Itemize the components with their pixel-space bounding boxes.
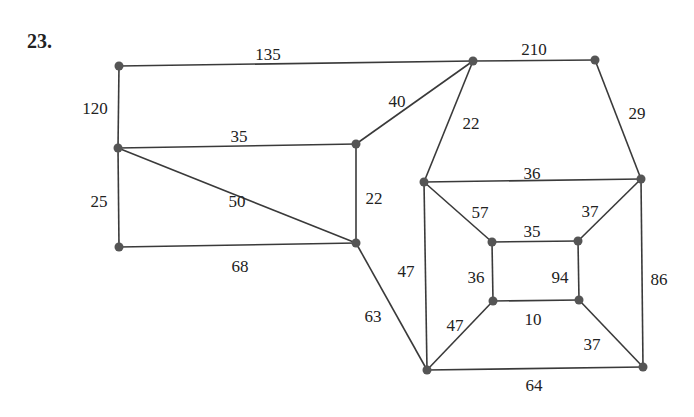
edge-N-O xyxy=(427,367,643,370)
vertex-F xyxy=(420,178,429,187)
edge-weight-labels: 1352101204022293550252268365737476335369… xyxy=(82,40,667,395)
edge-F-N xyxy=(424,182,427,370)
edge-A-D xyxy=(118,66,119,148)
edge-J-K xyxy=(492,241,578,242)
edge-D-H xyxy=(118,148,119,247)
edge-weight-label: 37 xyxy=(582,202,600,221)
edge-G-O xyxy=(641,179,643,367)
edge-weight-label: 94 xyxy=(552,268,570,287)
vertex-C xyxy=(591,56,600,65)
edge-L-M xyxy=(493,300,579,301)
edge-weight-label: 40 xyxy=(389,92,406,111)
vertex-D xyxy=(114,144,123,153)
edge-weight-label: 120 xyxy=(82,99,108,118)
edge-M-O xyxy=(579,300,643,367)
vertex-H xyxy=(115,243,124,252)
edge-A-B xyxy=(119,61,473,66)
vertex-K xyxy=(574,237,583,246)
edge-weight-label: 64 xyxy=(526,376,544,395)
edge-H-I xyxy=(119,243,356,247)
edge-J-L xyxy=(492,242,493,301)
edge-K-M xyxy=(578,241,579,300)
edge-weight-label: 63 xyxy=(365,307,382,326)
vertex-J xyxy=(488,238,497,247)
edge-weight-label: 50 xyxy=(229,192,246,211)
vertex-N xyxy=(423,366,432,375)
edge-weight-label: 22 xyxy=(366,189,383,208)
edge-weight-label: 135 xyxy=(255,45,281,64)
edge-weight-label: 29 xyxy=(629,104,646,123)
vertex-I xyxy=(352,239,361,248)
edge-weight-label: 22 xyxy=(463,114,480,133)
graph-nodes xyxy=(114,56,648,375)
edge-weight-label: 35 xyxy=(524,222,541,241)
edge-weight-label: 10 xyxy=(525,310,542,329)
edge-L-N xyxy=(427,301,493,370)
edge-weight-label: 57 xyxy=(472,203,490,222)
vertex-B xyxy=(469,57,478,66)
vertex-L xyxy=(489,297,498,306)
vertex-A xyxy=(115,62,124,71)
vertex-E xyxy=(352,140,361,149)
edge-weight-label: 47 xyxy=(398,262,416,281)
edge-weight-label: 210 xyxy=(521,40,547,59)
edge-weight-label: 36 xyxy=(524,164,541,183)
edge-B-C xyxy=(473,60,595,61)
edge-weight-label: 25 xyxy=(91,192,108,211)
edge-weight-label: 86 xyxy=(651,270,668,289)
edge-weight-label: 37 xyxy=(584,335,602,354)
edge-weight-label: 36 xyxy=(468,268,485,287)
vertex-G xyxy=(637,175,646,184)
vertex-M xyxy=(575,296,584,305)
edge-weight-label: 35 xyxy=(231,127,248,146)
vertex-O xyxy=(639,363,648,372)
edge-weight-label: 47 xyxy=(447,316,465,335)
edge-weight-label: 68 xyxy=(232,257,249,276)
weighted-graph: 1352101204022293550252268365737476335369… xyxy=(0,0,694,417)
